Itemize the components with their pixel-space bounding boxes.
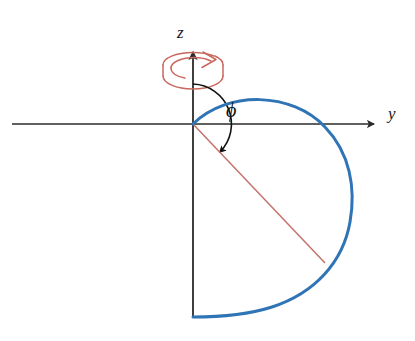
- rotation-ring-upper-right: [215, 56, 223, 65]
- phi-angle-label: ϕ: [226, 99, 236, 122]
- radius-line: [193, 124, 325, 263]
- y-axis-label: y: [386, 104, 396, 123]
- z-axis-label: z: [176, 23, 184, 42]
- rotation-inner-arc-tail: [171, 68, 185, 78]
- figure-canvas: z y ϕ: [0, 0, 415, 341]
- radius-line-segment: [193, 124, 325, 263]
- coordinate-diagram-svg: z y ϕ: [0, 0, 415, 341]
